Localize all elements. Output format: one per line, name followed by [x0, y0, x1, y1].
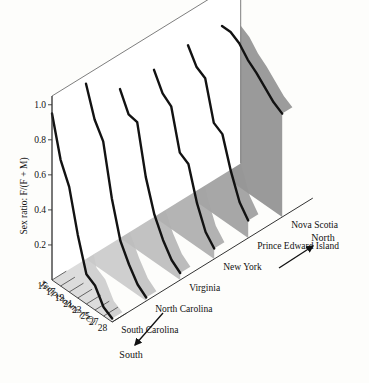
z-label-virginia: Virginia — [189, 283, 221, 293]
z-label-nova-scotia: Nova Scotia — [291, 220, 338, 230]
y-tick-label: 0.2 — [34, 240, 46, 250]
x-tick-label: 28 — [98, 323, 108, 333]
sex-ratio-3d-surface-chart: 0.20.40.60.81.0 1517192123252728 South C… — [0, 0, 369, 383]
y-tick-label: 0.4 — [34, 205, 46, 215]
z-label-south-carolina: South Carolina — [121, 325, 179, 335]
y-tick-label: 1.0 — [34, 100, 46, 110]
y-axis-label: Sex ratio: F/(F + M) — [19, 157, 30, 234]
z-label-north-carolina: North Carolina — [155, 304, 213, 314]
z-label-new-york: New York — [223, 262, 262, 272]
y-axis-ticks: 0.20.40.60.81.0 — [34, 96, 52, 280]
north-direction-label: North — [311, 232, 334, 243]
y-tick-label: 0.8 — [34, 135, 46, 145]
south-direction-label: South — [119, 349, 142, 360]
y-tick-label: 0.6 — [34, 170, 46, 180]
figure-container: 0.20.40.60.81.0 1517192123252728 South C… — [0, 0, 369, 383]
